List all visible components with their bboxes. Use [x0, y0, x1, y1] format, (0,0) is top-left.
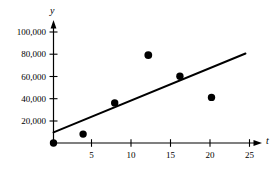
trend-line — [54, 54, 246, 133]
data-point — [79, 130, 86, 137]
y-tick-label-60000: 60,000 — [0, 72, 46, 81]
y-axis-label: y — [50, 6, 54, 16]
data-point — [208, 94, 215, 101]
data-point — [50, 139, 57, 146]
y-tick-label-20000: 20,000 — [0, 117, 46, 126]
data-point — [176, 73, 183, 80]
data-point — [111, 99, 118, 106]
data-point — [144, 51, 152, 59]
y-tick-label-100000: 100,000 — [0, 28, 46, 37]
x-axis-label: t — [266, 136, 269, 146]
y-tick-label-80000: 80,000 — [0, 50, 46, 59]
x-tick-label-25: 25 — [245, 151, 254, 160]
x-axis — [54, 140, 263, 146]
x-tick-label-15: 15 — [166, 151, 175, 160]
x-tick-label-10: 10 — [127, 151, 136, 160]
x-tick-label-20: 20 — [206, 151, 215, 160]
scatter-plot-figure: 100,000 80,000 60,000 40,000 20,000 5 10… — [0, 0, 278, 173]
x-tick-label-5: 5 — [89, 151, 94, 160]
y-tick-label-40000: 40,000 — [0, 94, 46, 103]
y-axis — [51, 20, 57, 143]
